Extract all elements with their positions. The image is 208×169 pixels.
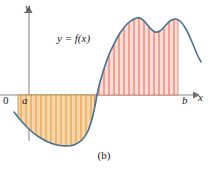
function-label: y = f(x) bbox=[57, 33, 90, 44]
figure-caption: (b) bbox=[0, 149, 208, 161]
x-axis-label: x bbox=[198, 92, 203, 103]
negative-area-hatch bbox=[21, 0, 91, 169]
plot-canvas bbox=[0, 0, 208, 169]
positive-area-fill bbox=[95, 18, 178, 106]
figure-panel: y x 0 a b y = f(x) (b) bbox=[0, 0, 208, 169]
origin-label: 0 bbox=[3, 95, 9, 106]
y-axis-label: y bbox=[25, 2, 30, 13]
lower-bound-label-a: a bbox=[22, 95, 28, 106]
upper-bound-label-b: b bbox=[182, 95, 188, 106]
